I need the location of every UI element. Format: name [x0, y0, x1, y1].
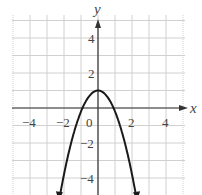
y-tick-label: −2: [80, 136, 94, 151]
y-tick-label: 4: [88, 31, 95, 46]
x-tick-label: 2: [128, 115, 135, 130]
x-tick-label: 4: [162, 115, 169, 130]
curve-arrow-left-icon: [56, 191, 63, 195]
y-axis-label: y: [92, 1, 101, 17]
y-tick-label: 2: [88, 66, 95, 81]
parabola-graph: xy −4−202442−2−4: [0, 0, 202, 195]
y-tick-label: −4: [80, 171, 94, 186]
x-axis-label: x: [189, 100, 197, 116]
x-tick-label: −4: [22, 115, 36, 130]
axes: xy: [12, 1, 197, 195]
curve-arrow-right-icon: [133, 191, 140, 195]
x-tick-label: 0: [86, 115, 93, 130]
x-tick-label: −2: [56, 115, 70, 130]
